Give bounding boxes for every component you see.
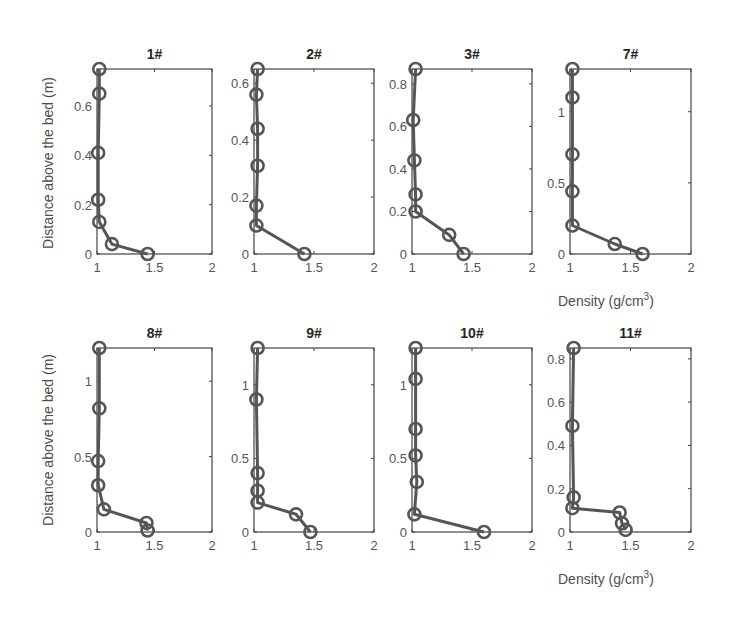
y-tick-label: 0.8 — [389, 77, 407, 92]
y-tick-label: 0 — [85, 525, 92, 540]
x-tick-label: 1 — [93, 538, 100, 553]
x-tick-label: 2 — [687, 538, 694, 553]
x-tick-label: 2 — [370, 260, 377, 275]
x-tick-label: 1 — [566, 260, 573, 275]
y-tick-label: 0 — [558, 525, 565, 540]
y-tick-label: 0.8 — [547, 352, 565, 367]
axes-box — [570, 69, 691, 254]
axes-box — [570, 348, 691, 532]
y-tick-label: 0.2 — [74, 198, 92, 213]
x-tick-label: 1 — [408, 538, 415, 553]
y-tick-label: 0.5 — [231, 451, 249, 466]
x-tick-label: 1.5 — [621, 260, 639, 275]
x-tick-label: 1.5 — [463, 538, 481, 553]
x-tick-label: 1.5 — [621, 538, 639, 553]
subplot-title: 8# — [147, 325, 163, 341]
x-tick-label: 2 — [528, 260, 535, 275]
axes-box — [97, 69, 212, 254]
x-axis-label-text: Density (g/cm — [558, 293, 644, 309]
y-tick-label: 0 — [400, 247, 407, 262]
subplot-title: 1# — [147, 46, 163, 62]
x-tick-label: 2 — [208, 538, 215, 553]
x-axis-label-close: ) — [649, 571, 654, 587]
y-axis-label-top: Distance above the bed (m) — [40, 77, 56, 249]
x-tick-label: 1 — [566, 538, 573, 553]
subplot-title: 9# — [306, 325, 322, 341]
subplot-title: 3# — [464, 46, 480, 62]
y-tick-label: 0.4 — [389, 162, 407, 177]
y-tick-label: 0.2 — [547, 482, 565, 497]
subplot-10: 10#11.5200.51 — [389, 325, 536, 553]
y-tick-label: 0 — [242, 525, 249, 540]
y-tick-label: 1 — [85, 374, 92, 389]
x-tick-label: 2 — [687, 260, 694, 275]
y-tick-label: 0.6 — [231, 76, 249, 91]
subplot-8: 8#11.5200.51 — [74, 325, 216, 553]
y-tick-label: 0 — [558, 247, 565, 262]
y-tick-label: 0.2 — [389, 204, 407, 219]
y-tick-label: 0.5 — [74, 450, 92, 465]
subplot-7: 7#11.5200.51 — [547, 46, 695, 275]
subplot-2: 2#11.5200.20.40.6 — [231, 46, 378, 275]
y-tick-label: 1 — [400, 378, 407, 393]
subplot-title: 7# — [623, 46, 639, 62]
y-tick-label: 0.4 — [231, 133, 249, 148]
x-tick-label: 2 — [528, 538, 535, 553]
x-tick-label: 1 — [250, 538, 257, 553]
subplot-11: 11#11.5200.20.40.60.8 — [547, 325, 695, 553]
y-tick-label: 0.2 — [231, 190, 249, 205]
x-tick-label: 1.5 — [305, 538, 323, 553]
x-tick-label: 2 — [208, 260, 215, 275]
subplot-title: 10# — [460, 325, 484, 341]
y-axis-label-bottom: Distance above the bed (m) — [40, 354, 56, 526]
y-tick-label: 0 — [85, 247, 92, 262]
x-tick-label: 1.5 — [463, 260, 481, 275]
x-axis-label-close: ) — [649, 293, 654, 309]
x-tick-label: 1 — [408, 260, 415, 275]
axes-box — [412, 348, 532, 532]
y-tick-label: 0.5 — [389, 451, 407, 466]
subplot-1: 1#11.5200.20.40.6 — [74, 46, 216, 275]
subplot-3: 3#11.5200.20.40.60.8 — [389, 46, 536, 275]
y-tick-label: 1 — [558, 105, 565, 120]
y-tick-label: 0 — [242, 247, 249, 262]
x-axis-label-text: Density (g/cm — [558, 571, 644, 587]
y-tick-label: 0.4 — [74, 148, 92, 163]
x-tick-label: 1.5 — [145, 260, 163, 275]
axes-box — [254, 348, 374, 532]
x-tick-label: 1 — [250, 260, 257, 275]
y-tick-label: 0.6 — [547, 395, 565, 410]
x-axis-label-bottom: Density (g/cm3) — [558, 569, 654, 587]
x-tick-label: 1.5 — [305, 260, 323, 275]
y-tick-label: 0.6 — [389, 119, 407, 134]
y-tick-label: 0.6 — [74, 99, 92, 114]
axes-box — [97, 348, 212, 532]
y-tick-label: 0 — [400, 525, 407, 540]
x-axis-label-top: Density (g/cm3) — [558, 291, 654, 309]
y-tick-label: 0.5 — [547, 176, 565, 191]
subplot-title: 2# — [306, 46, 322, 62]
axes-box — [412, 69, 532, 254]
y-tick-label: 1 — [242, 378, 249, 393]
subplot-title: 11# — [619, 325, 642, 341]
x-tick-label: 1 — [93, 260, 100, 275]
y-tick-label: 0.4 — [547, 438, 565, 453]
subplot-9: 9#11.5200.51 — [231, 325, 378, 553]
x-tick-label: 2 — [370, 538, 377, 553]
axes-box — [254, 69, 374, 254]
x-tick-label: 1.5 — [145, 538, 163, 553]
chart-figure: 1#11.5200.20.40.62#11.5200.20.40.63#11.5… — [0, 0, 736, 622]
